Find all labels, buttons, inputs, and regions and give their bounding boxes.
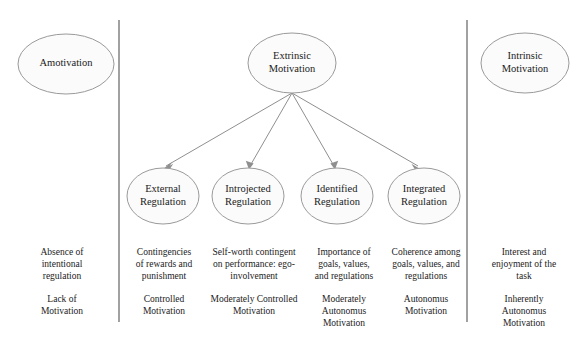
summary-external-regulation: Controlled Motivation bbox=[122, 293, 206, 317]
description-external-regulation: Contingencies of rewards and punishment bbox=[122, 246, 206, 282]
arrow-extrinsic-to-identified bbox=[292, 93, 338, 170]
node-introjected-regulation[interactable] bbox=[212, 168, 284, 224]
arrow-extrinsic-to-external bbox=[163, 93, 292, 170]
arrow-extrinsic-to-integrated bbox=[292, 93, 421, 170]
node-amotivation[interactable] bbox=[18, 34, 114, 94]
motivation-continuum-diagram: Amotivation Extrinsic Motivation Intrins… bbox=[0, 0, 585, 346]
node-integrated-regulation[interactable] bbox=[388, 168, 460, 224]
description-identified-regulation: Importance of goals, values, and regulat… bbox=[304, 246, 384, 282]
description-amotivation: Absence of intentional regulation bbox=[8, 246, 116, 282]
summary-intrinsic-motivation: Inherently Autonomus Motivation bbox=[472, 293, 576, 329]
summary-amotivation: Lack of Motivation bbox=[8, 293, 116, 317]
description-integrated-regulation: Coherence among goals, values, and regul… bbox=[382, 246, 470, 282]
summary-identified-regulation: Moderately Autonomus Motivation bbox=[304, 293, 384, 329]
summary-integrated-regulation: Autonomus Motivation bbox=[382, 293, 470, 317]
description-intrinsic-motivation: Interest and enjoyment of the task bbox=[472, 246, 576, 282]
description-introjected-regulation: Self-worth contingent on performance: eg… bbox=[202, 246, 306, 282]
node-intrinsic-motivation[interactable] bbox=[481, 33, 569, 93]
node-external-regulation[interactable] bbox=[127, 168, 199, 224]
summary-introjected-regulation: Moderately Controlled Motivation bbox=[200, 293, 308, 317]
arrow-extrinsic-to-introjected bbox=[246, 93, 292, 170]
node-identified-regulation[interactable] bbox=[301, 168, 373, 224]
node-extrinsic-motivation[interactable] bbox=[248, 33, 336, 93]
